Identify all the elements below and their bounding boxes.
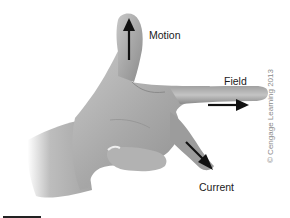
field-label: Field (224, 75, 247, 87)
motion-label: Motion (149, 29, 181, 41)
current-label: Current (199, 181, 234, 193)
index-finger-shape (170, 86, 268, 104)
hand-illustration (0, 0, 290, 218)
copyright-notice: © Cengage Learning 2013 (266, 69, 275, 163)
divider-rule (3, 216, 41, 218)
